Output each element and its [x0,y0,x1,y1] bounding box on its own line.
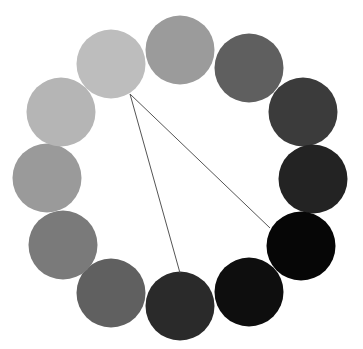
connector-lines [130,94,270,273]
circle-group [13,16,348,341]
connector-line-1 [130,94,180,273]
gray-circle-8 [146,272,215,341]
gray-circle-2 [146,16,215,85]
diagram-canvas [0,0,363,349]
gray-circle-3 [215,34,284,103]
grayscale-wheel [0,0,363,349]
gray-circle-12 [27,78,96,147]
gray-circle-1 [77,30,146,99]
gray-circle-6 [267,212,336,281]
gray-circle-4 [269,78,338,147]
gray-circle-5 [279,145,348,214]
gray-circle-7 [215,258,284,327]
gray-circle-11 [13,144,82,213]
connector-line-2 [130,94,270,228]
gray-circle-10 [29,211,98,280]
